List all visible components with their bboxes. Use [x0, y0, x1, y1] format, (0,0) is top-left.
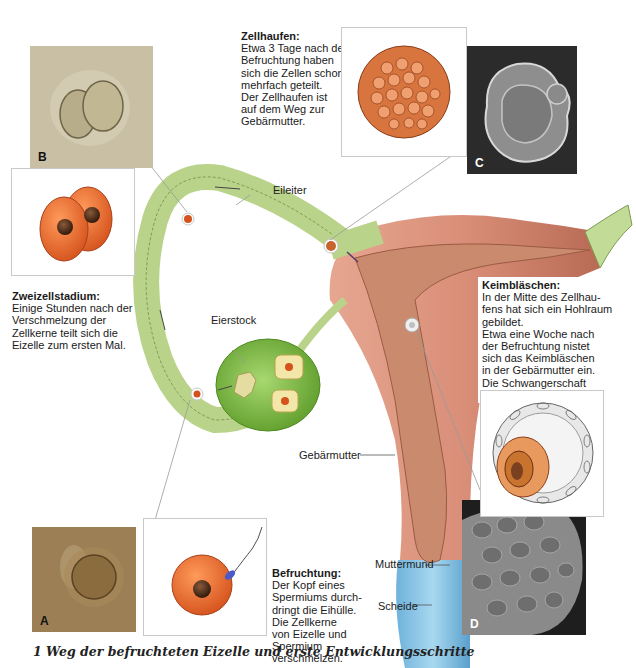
ovary-shape [216, 339, 320, 431]
description-keimblaeschen: Keimbläschen: In der Mitte des Zellhau- … [478, 277, 636, 403]
blastocyst-sem-icon [462, 500, 586, 635]
label-scheide: Scheide [378, 600, 418, 612]
photo-c-morula-sem: C [467, 46, 577, 174]
photo-label-d: D [470, 617, 479, 631]
two-cell-illustration-panel [11, 168, 135, 276]
fertilization-illustration-panel [143, 518, 267, 636]
photo-b-two-cell-micrograph: B [30, 46, 153, 168]
label-muttermund: Muttermund [375, 558, 434, 570]
two-cell-egg-icon [12, 169, 134, 275]
photo-label-c: C [475, 156, 484, 170]
blastocyst-icon [481, 391, 603, 516]
photo-label-b: B [38, 150, 47, 164]
fertilization-egg-icon [144, 519, 266, 635]
figure-caption: 1 Weg der befruchteten Eizelle und erste… [33, 644, 475, 659]
morula-illustration-panel [341, 27, 467, 157]
morula-icon [342, 28, 466, 156]
description-zweizellstadium: Zweizellstadium: Einige Stunden nach der… [12, 290, 182, 351]
photo-d-blastocyst-sem: D [462, 500, 586, 635]
two-cell-micrograph-icon [30, 46, 153, 168]
label-eileiter: Eileiter [273, 184, 307, 196]
label-gebaermutter: Gebärmutter [299, 449, 361, 461]
label-eierstock: Eierstock [211, 314, 256, 326]
morula-sem-icon [467, 46, 577, 174]
blastocyst-illustration-panel [480, 390, 604, 517]
photo-label-a: A [40, 614, 49, 628]
photo-a-egg-micrograph: A [32, 527, 136, 632]
